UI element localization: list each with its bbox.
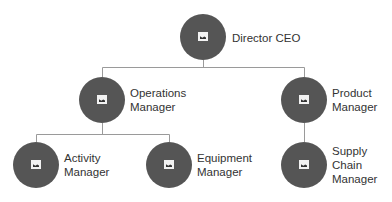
node-label: Equipment Manager [197,151,252,179]
image-placeholder-icon [164,160,174,169]
image-placeholder-icon [299,95,309,104]
avatar [281,77,327,123]
image-placeholder-icon [299,160,309,169]
avatar [146,142,192,188]
avatar [13,142,59,188]
node-label: Supply Chain Manager [332,144,377,186]
avatar [281,142,327,188]
node-label: Activity Manager [64,151,109,179]
image-placeholder-icon [198,32,208,41]
image-placeholder-icon [97,95,107,104]
node-label: Director CEO [232,31,300,45]
node-label: Product Manager [332,86,377,114]
node-label: Operations Manager [130,86,186,114]
avatar [180,14,226,60]
image-placeholder-icon [31,160,41,169]
avatar [79,77,125,123]
